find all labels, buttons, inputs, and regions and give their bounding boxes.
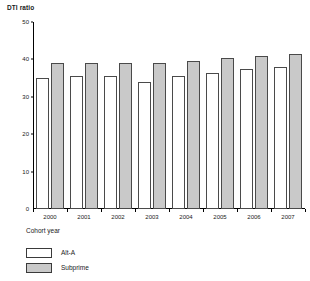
bar-group-2003: [135, 22, 169, 209]
legend-label: Subprime: [61, 264, 89, 271]
bar-alt-a-2001: [70, 76, 84, 209]
x-tick-label-2003: 2003: [145, 214, 158, 220]
bar-group-2006: [237, 22, 271, 209]
alt-a-swatch: [26, 248, 52, 258]
y-tick-label-30: 30: [22, 94, 29, 100]
x-tick-mark-2002: [101, 209, 102, 212]
bar-group-2005: [203, 22, 237, 209]
x-tick-label-2007: 2007: [281, 214, 294, 220]
x-tick-label-2002: 2002: [111, 214, 124, 220]
x-tick-mark-2007: [271, 209, 272, 212]
legend-item-alt-a[interactable]: Alt-A: [26, 246, 89, 259]
bar-group-2004: [169, 22, 203, 209]
x-tick-label-2000: 2000: [43, 214, 56, 220]
bar-subprime-2000: [51, 63, 65, 209]
dti-ratio-bar-chart: DTI ratio 01020304050 200020012002200320…: [0, 0, 310, 281]
y-tick-label-10: 10: [22, 169, 29, 175]
bars-layer: [33, 22, 305, 209]
bar-group-2000: [33, 22, 67, 209]
bar-subprime-2006: [255, 56, 269, 209]
bar-alt-a-2002: [104, 76, 118, 209]
y-tick-label-0: 0: [26, 206, 29, 212]
bar-group-2001: [67, 22, 101, 209]
plot-area: 01020304050 2000200120022003200420052006…: [33, 22, 305, 209]
bar-alt-a-2000: [36, 78, 50, 209]
y-axis-title: DTI ratio: [7, 4, 34, 11]
bar-subprime-2002: [119, 63, 133, 209]
x-tick-mark-2001: [67, 209, 68, 212]
x-tick-label-2005: 2005: [213, 214, 226, 220]
bar-subprime-2003: [153, 63, 167, 209]
x-tick-label-2001: 2001: [77, 214, 90, 220]
bar-subprime-2007: [289, 54, 303, 209]
y-tick-label-40: 40: [22, 56, 29, 62]
bar-alt-a-2007: [274, 67, 288, 209]
subprime-swatch: [26, 263, 52, 273]
x-tick-label-2004: 2004: [179, 214, 192, 220]
bar-alt-a-2004: [172, 76, 186, 209]
x-tick-mark-end: [305, 209, 306, 212]
bar-alt-a-2005: [206, 73, 220, 210]
bar-group-2002: [101, 22, 135, 209]
legend-item-subprime[interactable]: Subprime: [26, 261, 89, 274]
bar-subprime-2004: [187, 61, 201, 209]
y-tick-label-50: 50: [22, 19, 29, 25]
x-tick-mark-2004: [169, 209, 170, 212]
x-tick-mark-2005: [203, 209, 204, 212]
bar-alt-a-2006: [240, 69, 254, 209]
bar-group-2007: [271, 22, 305, 209]
y-tick-label-20: 20: [22, 131, 29, 137]
x-tick-mark-2006: [237, 209, 238, 212]
x-tick-label-2006: 2006: [247, 214, 260, 220]
x-axis-title: Cohort year: [26, 227, 60, 234]
bar-subprime-2005: [221, 58, 235, 209]
legend-label: Alt-A: [61, 249, 75, 256]
x-tick-mark-2003: [135, 209, 136, 212]
bar-subprime-2001: [85, 63, 99, 209]
x-tick-mark-2000: [33, 209, 34, 212]
bar-alt-a-2003: [138, 82, 152, 209]
chart-legend: Alt-ASubprime: [26, 246, 89, 276]
